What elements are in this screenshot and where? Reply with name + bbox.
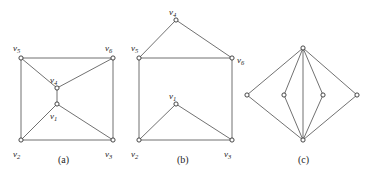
graph-vertex <box>321 93 325 97</box>
caption-graph-b: (b) <box>177 155 189 165</box>
graph-edge <box>284 48 303 95</box>
graph-vertex <box>355 93 359 97</box>
graph-edge <box>139 20 176 58</box>
vertex-label-v6: v6 <box>237 56 244 65</box>
vertex-label-v3: v3 <box>224 150 231 159</box>
vertex-label-v4: v4 <box>169 8 176 17</box>
graph-edge <box>303 95 357 140</box>
graph-edge <box>247 95 303 140</box>
graph-vertex <box>19 138 23 142</box>
graph-edge <box>139 104 176 140</box>
graph-vertex <box>137 56 141 60</box>
vertex-label-v1: v1 <box>169 92 176 101</box>
graph-figure: v5v6v4v1v2v3(a)v4v5v6v1v2v3(b)(c) <box>0 0 378 172</box>
graph-vertex <box>282 93 286 97</box>
graph-edge <box>303 95 323 140</box>
vertex-label-v5: v5 <box>131 44 138 53</box>
graph-a <box>19 56 115 142</box>
graph-edge <box>303 48 357 95</box>
caption-graph-c: (c) <box>298 155 309 165</box>
graph-b <box>137 18 234 142</box>
graph-edge <box>176 20 232 58</box>
graph-vertex <box>55 102 59 106</box>
vertex-label-v6: v6 <box>105 44 112 53</box>
graph-vertex <box>19 56 23 60</box>
graph-vertex <box>245 93 249 97</box>
graph-vertex <box>111 56 115 60</box>
graph-vertex <box>230 56 234 60</box>
graph-vertex <box>174 102 178 106</box>
graph-edge <box>57 58 113 88</box>
graph-vertex <box>230 138 234 142</box>
graph-vertex <box>301 138 305 142</box>
graph-vertex <box>111 138 115 142</box>
caption-graph-a: (a) <box>58 155 69 165</box>
graph-vertex <box>55 86 59 90</box>
vertex-label-v4: v4 <box>50 76 57 85</box>
graph-vertex <box>174 18 178 22</box>
vertex-label-v1: v1 <box>50 112 57 121</box>
graph-edge <box>303 48 323 95</box>
graph-canvas <box>0 0 378 172</box>
graph-edge <box>57 104 113 140</box>
graph-edge <box>247 48 303 95</box>
graph-edge <box>284 95 303 140</box>
graph-vertex <box>137 138 141 142</box>
vertex-label-v3: v3 <box>105 150 112 159</box>
graph-vertex <box>301 46 305 50</box>
graph-c <box>245 46 359 142</box>
graph-edge <box>21 104 57 140</box>
vertex-label-v5: v5 <box>13 44 20 53</box>
graph-edge <box>176 104 232 140</box>
vertex-label-v2: v2 <box>131 150 138 159</box>
vertex-label-v2: v2 <box>13 150 20 159</box>
